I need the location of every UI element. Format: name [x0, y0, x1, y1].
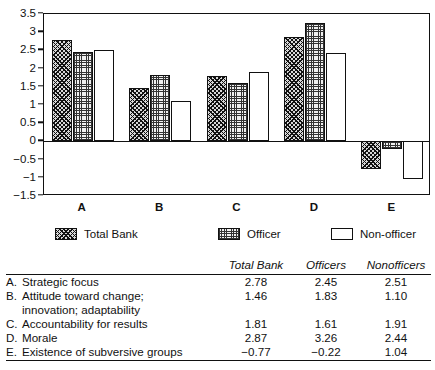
table-row: E.Existence of subversive groups−0.77−0.… [6, 344, 431, 358]
legend-item-total-bank: Total Bank [55, 228, 138, 240]
table-body: A.Strategic focus2.782.452.51B.Attitude … [6, 275, 431, 359]
bar-e-non-officer [403, 141, 423, 179]
bar-a-officer [73, 52, 93, 141]
bar-d-officer [305, 23, 325, 142]
bar-b-officer [150, 75, 170, 142]
figure-root: 3.532.521.510.50−0.5−1−1.5 ABCDE Total B… [0, 0, 435, 370]
table-cell-total-bank: 2.87 [221, 330, 291, 344]
bar-e-officer [382, 141, 402, 149]
table-cell-officers: 1.83 [291, 289, 361, 316]
table-row-key: D. [6, 331, 22, 344]
table-cell-nonofficers: 2.44 [361, 330, 431, 344]
table-row: B.Attitude toward change;innovation; ada… [6, 289, 431, 316]
bar-b-total-bank [129, 88, 149, 141]
bar-a-total-bank [52, 40, 72, 141]
bar-chart: 3.532.521.510.50−0.5−1−1.5 ABCDE [0, 0, 435, 220]
x-axis-tick-label-c: C [232, 201, 240, 213]
table-row-key: A. [6, 275, 22, 288]
bar-d-non-officer [326, 53, 346, 142]
table-cell-total-bank: 2.78 [221, 275, 291, 289]
y-axis-tick-label: 0.5 [2, 117, 36, 128]
y-axis-tick-label: −0.5 [2, 153, 36, 164]
data-table: Total Bank Officers Nonofficers A.Strate… [6, 258, 431, 358]
table-header-row: Total Bank Officers Nonofficers [6, 258, 431, 275]
table-cell-total-bank: −0.77 [221, 344, 291, 358]
table-cell-label: E.Existence of subversive groups [6, 344, 221, 358]
table-cell-label: A.Strategic focus [6, 275, 221, 289]
table-cell-total-bank: 1.81 [221, 316, 291, 330]
legend-item-non-officer: Non-officer [331, 228, 416, 240]
y-axis-tick-label: 1 [2, 99, 36, 110]
bar-e-total-bank [361, 141, 381, 169]
table-row: C.Accountability for results1.811.611.91 [6, 316, 431, 330]
y-axis-tick-label: −1.5 [2, 190, 36, 201]
chart-legend: Total BankOfficerNon-officer [43, 225, 430, 251]
bar-a-non-officer [94, 50, 114, 141]
bar-c-officer [228, 83, 248, 142]
legend-swatch-officer-icon [218, 228, 240, 240]
legend-label: Total Bank [84, 228, 138, 240]
y-axis-tick-label: 3 [2, 26, 36, 37]
table-row: D.Morale2.873.262.44 [6, 330, 431, 344]
column-header-officers: Officers [291, 258, 361, 275]
table-cell-label: C.Accountability for results [6, 316, 221, 330]
bar-b-non-officer [171, 101, 191, 141]
legend-item-officer: Officer [218, 228, 281, 240]
y-axis-tick-label: 3.5 [2, 8, 36, 19]
table-row-label-continued: innovation; adaptability [6, 303, 221, 316]
column-header-total-bank: Total Bank [221, 258, 291, 275]
y-axis-labels: 3.532.521.510.50−0.5−1−1.5 [0, 0, 36, 220]
x-axis-tick-label-d: D [310, 201, 318, 213]
table-cell-officers: −0.22 [291, 344, 361, 358]
legend-swatch-non-officer-icon [331, 228, 353, 240]
table-cell-officers: 3.26 [291, 330, 361, 344]
x-axis-tick-label-e: E [387, 201, 395, 213]
legend-label: Officer [247, 228, 281, 240]
table-row-key: E. [6, 345, 22, 358]
table-cell-nonofficers: 1.10 [361, 289, 431, 316]
table-cell-nonofficers: 1.04 [361, 344, 431, 358]
table-cell-label: D.Morale [6, 330, 221, 344]
bar-d-total-bank [284, 37, 304, 141]
x-axis-tick-label-b: B [155, 201, 163, 213]
table-cell-officers: 1.61 [291, 316, 361, 330]
y-axis-tick-label: −1 [2, 171, 36, 182]
x-axis-tick-label-a: A [78, 201, 86, 213]
bar-c-total-bank [207, 76, 227, 142]
plot-frame [43, 13, 430, 195]
y-axis-tick-label: 0 [2, 135, 36, 146]
y-axis-tick-label: 2 [2, 62, 36, 73]
table-cell-nonofficers: 1.91 [361, 316, 431, 330]
table-cell-total-bank: 1.46 [221, 289, 291, 316]
table-cell-nonofficers: 2.51 [361, 275, 431, 289]
table-row-key: B. [6, 289, 22, 302]
bar-c-non-officer [249, 72, 269, 142]
column-header-nonofficers: Nonofficers [361, 258, 431, 275]
bars-layer [44, 14, 429, 194]
table-bottom-rule [6, 360, 431, 361]
column-header-blank [6, 258, 221, 275]
legend-label: Non-officer [360, 228, 416, 240]
table-row-key: C. [6, 317, 22, 330]
data-table-wrapper: Total Bank Officers Nonofficers A.Strate… [6, 258, 431, 358]
table-cell-officers: 2.45 [291, 275, 361, 289]
legend-swatch-total-bank-icon [55, 228, 77, 240]
table-row: A.Strategic focus2.782.452.51 [6, 275, 431, 289]
y-axis-tick-label: 2.5 [2, 44, 36, 55]
table-cell-label: B.Attitude toward change;innovation; ada… [6, 289, 221, 316]
y-axis-tick-label: 1.5 [2, 80, 36, 91]
